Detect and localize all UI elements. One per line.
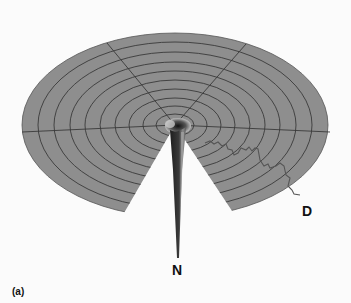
label-n: N — [172, 262, 182, 278]
spike-n — [170, 127, 186, 258]
label-d: D — [302, 203, 312, 219]
panel-label: (a) — [12, 286, 24, 297]
polar-surface-diagram — [0, 0, 351, 303]
figure-canvas: N D (a) — [0, 0, 351, 303]
